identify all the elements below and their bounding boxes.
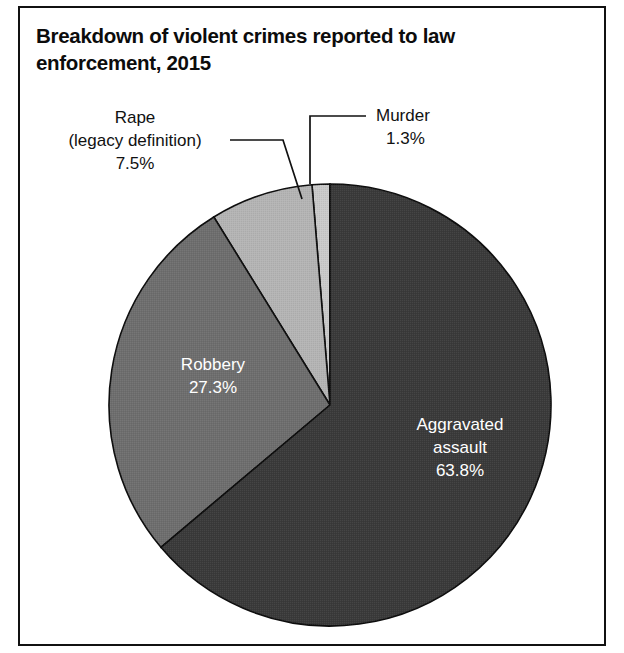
pie-chart-svg: Robbery 27.3% Aggravated assault 63.8% R…	[18, 6, 606, 646]
slice-callout-rape: Rape (legacy definition) 7.5%	[68, 108, 302, 199]
slice-label-aggravated-line3: 63.8%	[436, 461, 484, 480]
slice-label-robbery-line2: 27.3%	[189, 378, 237, 397]
slice-label-robbery-line1: Robbery	[181, 355, 246, 374]
slice-callout-murder-line1: Murder	[376, 106, 430, 125]
slice-callout-murder: Murder 1.3%	[310, 106, 430, 184]
slice-callout-murder-line2: 1.3%	[386, 129, 425, 148]
pie-chart: Robbery 27.3% Aggravated assault 63.8% R…	[18, 6, 606, 646]
slice-label-aggravated-line2: assault	[433, 438, 487, 457]
leader-line-murder	[310, 116, 366, 184]
slice-label-aggravated-line1: Aggravated	[417, 415, 504, 434]
figure-container: Breakdown of violent crimes reported to …	[0, 0, 624, 653]
slice-callout-rape-line3: 7.5%	[116, 154, 155, 173]
pie-slice-texture	[109, 184, 551, 626]
slice-callout-rape-line2: (legacy definition)	[68, 131, 201, 150]
slice-callout-rape-line1: Rape	[115, 108, 156, 127]
